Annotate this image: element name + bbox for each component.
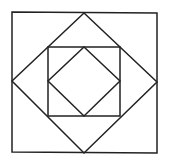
nested-squares-diagram: [0, 0, 171, 162]
inner-square: [48, 47, 120, 116]
outer-square: [12, 12, 157, 153]
outer-diamond: [12, 13, 157, 153]
inner-diamond: [48, 47, 120, 116]
